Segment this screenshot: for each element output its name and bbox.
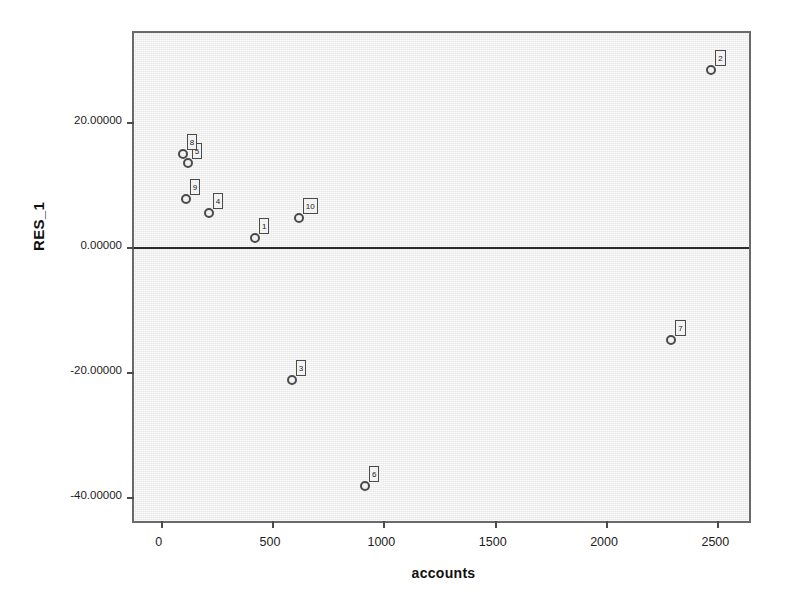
data-point-marker — [204, 208, 214, 218]
y-axis-title: RES_1 — [30, 202, 47, 251]
data-point-case-label: 2 — [715, 50, 725, 66]
data-point-marker — [250, 233, 260, 243]
data-point-marker — [706, 65, 716, 75]
x-axis-tick — [272, 521, 274, 528]
y-axis-tick-label: 20.00000 — [74, 114, 122, 126]
data-point-marker — [287, 375, 297, 385]
data-point-marker — [294, 213, 304, 223]
data-point-case-label: 4 — [213, 193, 223, 209]
x-axis-tick-label: 2500 — [701, 535, 729, 549]
y-axis-tick — [127, 372, 134, 374]
x-axis-tick-label: 500 — [260, 535, 281, 549]
x-axis-tick — [383, 521, 385, 528]
x-axis-tick-label: 0 — [155, 535, 162, 549]
x-axis-tick-label: 1000 — [367, 535, 395, 549]
x-axis-title: accounts — [0, 565, 791, 581]
data-point-case-label: 1 — [259, 218, 269, 234]
plot-area: 12345678910 — [132, 31, 751, 523]
data-point-marker — [181, 194, 191, 204]
x-axis-title-text: accounts — [412, 565, 476, 581]
x-axis-tick — [717, 521, 719, 528]
y-axis-tick-label: -40.00000 — [70, 489, 122, 501]
y-axis-tick-label: 0.00000 — [80, 239, 122, 251]
data-point-case-label: 6 — [369, 466, 379, 482]
y-axis-tick-label: -20.00000 — [70, 364, 122, 376]
data-point-marker — [183, 158, 193, 168]
y-axis-tick — [127, 497, 134, 499]
x-axis-tick — [495, 521, 497, 528]
x-axis-tick-label: 2000 — [590, 535, 618, 549]
zero-reference-line — [134, 247, 749, 249]
y-axis-tick — [127, 247, 134, 249]
data-point-case-label: 7 — [675, 320, 685, 336]
data-point-marker — [360, 481, 370, 491]
x-axis-tick-label: 1500 — [479, 535, 507, 549]
scatterplot-chart: RES_1 20.000000.00000-20.00000-40.00000 … — [0, 0, 791, 612]
y-axis-tick — [127, 122, 134, 124]
data-point-marker — [178, 149, 188, 159]
data-point-case-label: 9 — [190, 179, 200, 195]
data-point-case-label: 3 — [296, 360, 306, 376]
x-axis-tick — [606, 521, 608, 528]
data-point-case-label: 8 — [187, 134, 197, 150]
plot-texture — [134, 33, 749, 521]
data-point-case-label: 10 — [303, 198, 318, 214]
data-point-marker — [666, 335, 676, 345]
x-axis-tick — [161, 521, 163, 528]
